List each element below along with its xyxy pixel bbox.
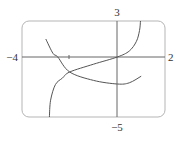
y-max-label: 3 — [114, 6, 120, 18]
decreasing-curve — [46, 39, 141, 84]
x-max-label: 2 — [168, 51, 174, 63]
x-min-label: −4 — [6, 51, 18, 63]
increasing-curve — [49, 21, 140, 117]
plot-canvas: 3 −5 −4 2 — [0, 0, 183, 142]
y-min-label: −5 — [111, 121, 123, 133]
viewing-window-frame — [22, 21, 165, 117]
